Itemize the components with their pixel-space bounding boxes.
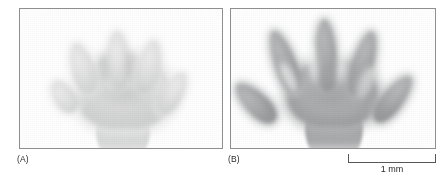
panel-b [230,8,436,149]
scale-bar [348,151,436,163]
digit-groove-a-2 [126,51,134,83]
panel-label-b: (B) [228,155,240,164]
scale-bar-label: 1 mm [348,165,436,174]
panel-a [19,8,223,149]
panel-label-a: (A) [17,155,29,164]
scale-bar-line [348,162,436,163]
limb-digit-b-1 [231,77,282,130]
digit-groove-a [100,53,108,83]
palm-shading-b [299,71,365,117]
figure-micrograph-pair: (A) (B) 1 mm [0,0,446,181]
micrograph-a [20,9,222,148]
micrograph-b [231,9,435,148]
interdigital-web-a [86,69,164,111]
